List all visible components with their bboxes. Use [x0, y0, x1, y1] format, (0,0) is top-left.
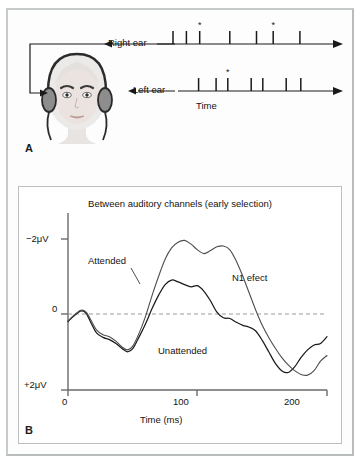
left-ear-event-ticks: * [199, 67, 301, 91]
deviant-asterisk-icon: * [198, 20, 202, 30]
deviant-asterisk-icon: * [271, 20, 275, 30]
curve-label-unattended: Unattended [158, 345, 207, 356]
x-axis-title: Time (ms) [140, 414, 182, 425]
right-ear-time-axis [157, 40, 343, 48]
figure-vector-layer: ** * [0, 0, 360, 463]
left-ear-time-axis [178, 87, 343, 95]
curve-label-attended: Attended [88, 255, 126, 266]
panel-a-letter: A [25, 142, 33, 154]
y-tick-label-zero: 0 [52, 303, 57, 314]
panel-a-time-label: Time [196, 100, 217, 111]
x-tick-label-100: 100 [173, 396, 189, 407]
figure-container: ** * A [0, 0, 360, 463]
y-tick-label-pos2: +2μV [24, 379, 47, 390]
panel-b-letter: B [25, 424, 33, 436]
erp-chart [61, 213, 327, 396]
x-tick-label-200: 200 [284, 396, 300, 407]
left-ear-label: Left ear [133, 84, 165, 95]
right-ear-event-ticks: ** [173, 20, 300, 44]
y-tick-label-neg2: −2μV [26, 233, 49, 244]
attended-leader-line [131, 268, 140, 284]
x-tick-label-0: 0 [62, 396, 67, 407]
right-ear-label: Right ear [108, 37, 147, 48]
head-with-headphones-icon [42, 54, 112, 144]
chart-title: Between auditory channels (early selecti… [0, 198, 360, 209]
n1-effect-annotation: N1 efect [232, 272, 267, 283]
deviant-asterisk-icon: * [226, 67, 230, 77]
curve-unattended [68, 280, 327, 373]
